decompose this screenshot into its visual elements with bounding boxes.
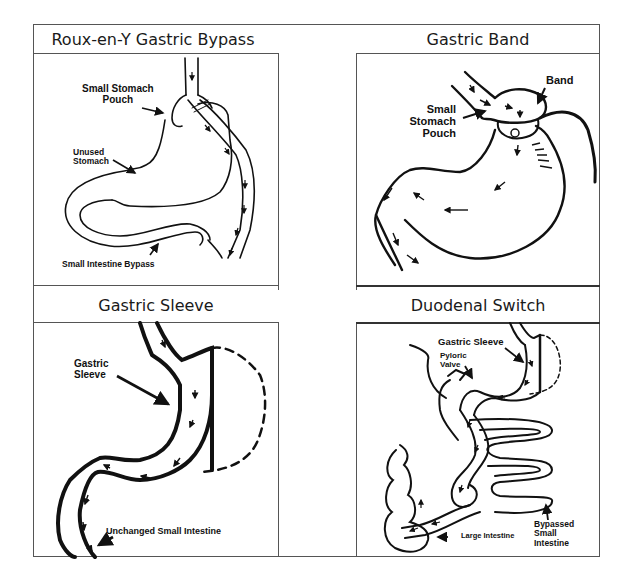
label-bypassed-small-intestine: Bypassed Small Intestine: [534, 520, 574, 548]
label-gastric-sleeve-line1: Gastric: [74, 358, 108, 369]
label-small-intestine-bypass: Small Intestine Bypass: [62, 260, 155, 269]
label-pyloric-valve: Pyloric Valve: [440, 352, 467, 370]
label-band-pouch-line2: Stomach: [404, 115, 456, 127]
label-band-pouch-line3: Pouch: [404, 127, 456, 139]
label-unused-stomach-line2: Stomach: [73, 157, 109, 166]
label-unused-stomach: Unused Stomach: [73, 148, 109, 167]
label-large-intestine: Large Intestine: [461, 532, 514, 540]
label-gastric-sleeve: Gastric Sleeve: [74, 358, 108, 380]
label-small-stomach-pouch-line1: Small Stomach: [82, 83, 154, 94]
label-band: Band: [546, 74, 574, 86]
label-ds-gastric-sleeve: Gastric Sleeve: [438, 337, 504, 347]
label-small-stomach-pouch: Small Stomach Pouch: [82, 83, 154, 105]
label-band-pouch-line1: Small: [404, 103, 456, 115]
label-small-stomach-pouch-band: Small Stomach Pouch: [404, 103, 456, 139]
band-stripes: [532, 143, 552, 168]
label-unchanged-small-intestine: Unchanged Small Intestine: [106, 527, 221, 537]
label-small-stomach-pouch-line2: Pouch: [82, 94, 154, 105]
label-gastric-sleeve-line2: Sleeve: [74, 369, 108, 380]
duodenal-switch-drawing: [385, 323, 560, 552]
label-bypassed-line3: Intestine: [534, 539, 574, 548]
label-pyloric-valve-line2: Valve: [440, 361, 467, 370]
gastric-band-drawing: [375, 72, 595, 270]
